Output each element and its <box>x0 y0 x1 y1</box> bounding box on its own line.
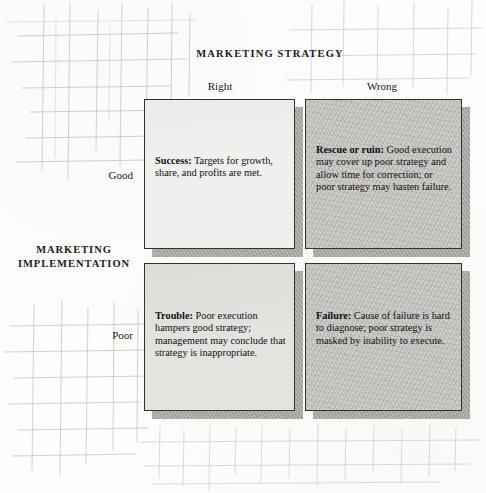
cell-good-right-term: Success <box>155 155 188 166</box>
cell-poor-wrong: Failure: Cause of failure is hard to dia… <box>305 263 462 411</box>
row-axis-title-line2: IMPLEMENTATION <box>8 257 140 271</box>
column-header-right: Right <box>180 80 260 92</box>
strategy-matrix-figure: MARKETING STRATEGY MARKETING IMPLEMENTAT… <box>0 0 486 493</box>
column-header-wrong: Wrong <box>342 80 422 92</box>
cell-poor-wrong-term: Failure <box>316 310 348 321</box>
row-header-good: Good <box>63 169 133 181</box>
decorative-grid-bottom <box>140 424 486 493</box>
row-axis-title-line1: MARKETING <box>8 243 140 257</box>
cell-poor-right-text: Trouble: Poor execution hampers good str… <box>155 310 286 360</box>
row-axis-title: MARKETING IMPLEMENTATION <box>8 243 140 271</box>
cell-poor-right: Trouble: Poor execution hampers good str… <box>144 263 295 411</box>
cell-poor-right-term: Trouble <box>155 310 190 321</box>
cell-good-wrong: Rescue or ruin: Good execution may cover… <box>305 99 462 249</box>
cell-good-wrong-term: Rescue or ruin <box>316 144 380 155</box>
column-axis-title: MARKETING STRATEGY <box>0 48 486 59</box>
cell-good-right-text: Success: Targets for growth, share, and … <box>155 155 286 180</box>
cell-good-wrong-text: Rescue or ruin: Good execution may cover… <box>316 144 453 194</box>
cell-good-right: Success: Targets for growth, share, and … <box>144 99 295 249</box>
decorative-grid-bottom-left <box>0 300 160 480</box>
cell-poor-wrong-text: Failure: Cause of failure is hard to dia… <box>316 310 453 347</box>
row-header-poor: Poor <box>63 329 133 341</box>
